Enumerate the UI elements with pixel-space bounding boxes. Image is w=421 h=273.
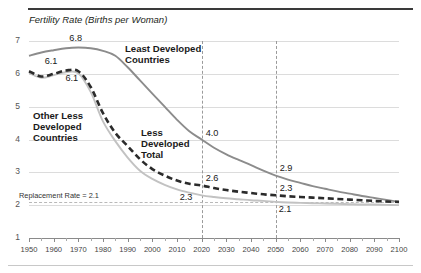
x-tick-label: 1990 bbox=[119, 245, 136, 254]
y-tick-label: 4 bbox=[6, 135, 20, 144]
point-label-4.0-2020: 4.0 bbox=[206, 128, 219, 138]
series-label-line: Developed bbox=[33, 121, 83, 132]
point-label-2.3-2050: 2.3 bbox=[280, 183, 293, 193]
point-label-6.1-1968: 6.1 bbox=[65, 73, 78, 83]
x-tick-minor bbox=[140, 238, 141, 241]
series-label-line: Total bbox=[141, 149, 190, 160]
x-tick-minor bbox=[189, 238, 190, 241]
series-label-least-developed-countries: Least DevelopedCountries bbox=[125, 43, 201, 65]
series-label-line: Least Developed bbox=[125, 43, 201, 54]
y-tick-label: 6 bbox=[6, 69, 20, 78]
point-label-2.9-2050: 2.9 bbox=[280, 163, 293, 173]
series-lines bbox=[29, 41, 399, 238]
chart-title: Fertility Rate (Births per Woman) bbox=[29, 14, 167, 25]
point-label-6.8-1970: 6.8 bbox=[69, 33, 82, 43]
x-tick-minor bbox=[165, 238, 166, 241]
x-tick bbox=[152, 238, 153, 242]
x-tick-minor bbox=[66, 238, 67, 241]
x-tick-label: 1970 bbox=[70, 245, 87, 254]
x-tick-minor bbox=[91, 238, 92, 241]
bottom-divider-rule bbox=[8, 265, 413, 266]
x-tick bbox=[399, 238, 400, 242]
fertility-rate-chart: Fertility Rate (Births per Woman) 123456… bbox=[0, 0, 421, 273]
x-tick-label: 2080 bbox=[341, 245, 358, 254]
x-tick-minor bbox=[239, 238, 240, 241]
x-tick bbox=[177, 238, 178, 242]
x-tick bbox=[300, 238, 301, 242]
x-tick-label: 2000 bbox=[144, 245, 161, 254]
x-tick-label: 2020 bbox=[193, 245, 210, 254]
x-tick-minor bbox=[41, 238, 42, 241]
x-tick-minor bbox=[337, 238, 338, 241]
x-tick-label: 1950 bbox=[21, 245, 38, 254]
x-tick bbox=[128, 238, 129, 242]
y-tick-label: 2 bbox=[6, 200, 20, 209]
x-tick bbox=[29, 238, 30, 242]
x-tick-minor bbox=[115, 238, 116, 241]
x-tick bbox=[325, 238, 326, 242]
x-tick-minor bbox=[214, 238, 215, 241]
series-label-line: Countries bbox=[125, 54, 201, 65]
point-label-2.1-2050: 2.1 bbox=[279, 204, 292, 214]
x-tick-minor bbox=[362, 238, 363, 241]
x-tick bbox=[202, 238, 203, 242]
x-tick bbox=[226, 238, 227, 242]
series-label-line: Countries bbox=[33, 132, 83, 143]
x-tick-label: 1980 bbox=[95, 245, 112, 254]
x-tick-minor bbox=[288, 238, 289, 241]
series-label-line: Less bbox=[141, 127, 190, 138]
x-tick-label: 2030 bbox=[218, 245, 235, 254]
x-tick bbox=[350, 238, 351, 242]
top-divider-rule bbox=[28, 8, 413, 10]
point-label-2.3-2020: 2.3 bbox=[180, 192, 193, 202]
x-tick-label: 2010 bbox=[169, 245, 186, 254]
series-label-line: Developed bbox=[141, 138, 190, 149]
x-tick-minor bbox=[263, 238, 264, 241]
x-tick-label: 1960 bbox=[45, 245, 62, 254]
y-tick-label: 7 bbox=[6, 36, 20, 45]
series-label-other-less-developed-countries: Other LessDevelopedCountries bbox=[33, 110, 83, 144]
x-tick bbox=[251, 238, 252, 242]
x-tick-label: 2060 bbox=[292, 245, 309, 254]
x-tick-label: 2050 bbox=[267, 245, 284, 254]
x-tick bbox=[103, 238, 104, 242]
series-line-other-less-developed-countries bbox=[29, 71, 399, 205]
x-tick bbox=[54, 238, 55, 242]
x-tick-minor bbox=[387, 238, 388, 241]
x-tick bbox=[78, 238, 79, 242]
x-tick bbox=[276, 238, 277, 242]
point-label-2.6-2020: 2.6 bbox=[206, 173, 219, 183]
x-tick-label: 2070 bbox=[317, 245, 334, 254]
y-tick-label: 5 bbox=[6, 102, 20, 111]
series-label-less-developed-total: LessDevelopedTotal bbox=[141, 127, 190, 161]
y-tick-label: 1 bbox=[6, 233, 20, 242]
x-tick-label: 2100 bbox=[391, 245, 408, 254]
point-label-6.1-1960: 6.1 bbox=[45, 56, 58, 66]
y-tick-label: 3 bbox=[6, 167, 20, 176]
series-label-line: Other Less bbox=[33, 110, 83, 121]
x-tick-label: 2090 bbox=[366, 245, 383, 254]
x-tick-label: 2040 bbox=[243, 245, 260, 254]
x-tick bbox=[374, 238, 375, 242]
x-tick-minor bbox=[313, 238, 314, 241]
